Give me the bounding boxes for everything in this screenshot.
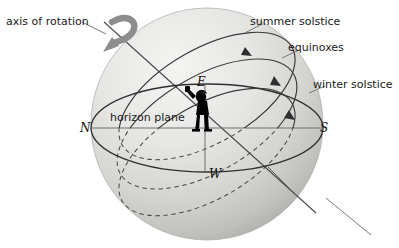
label-south: S bbox=[320, 122, 328, 134]
label-east: E bbox=[197, 76, 206, 88]
celestial-sphere-figure: axis of rotation summer solstice equinox… bbox=[0, 0, 399, 248]
label-axis-of-rotation: axis of rotation bbox=[6, 16, 89, 27]
diagram-canvas bbox=[0, 0, 399, 248]
label-horizon-plane: horizon plane bbox=[110, 112, 185, 123]
label-equinoxes: equinoxes bbox=[288, 42, 344, 53]
label-west: W bbox=[209, 168, 221, 180]
label-winter-solstice: winter solstice bbox=[313, 79, 393, 90]
label-north: N bbox=[80, 122, 91, 134]
label-summer-solstice: summer solstice bbox=[250, 16, 340, 27]
